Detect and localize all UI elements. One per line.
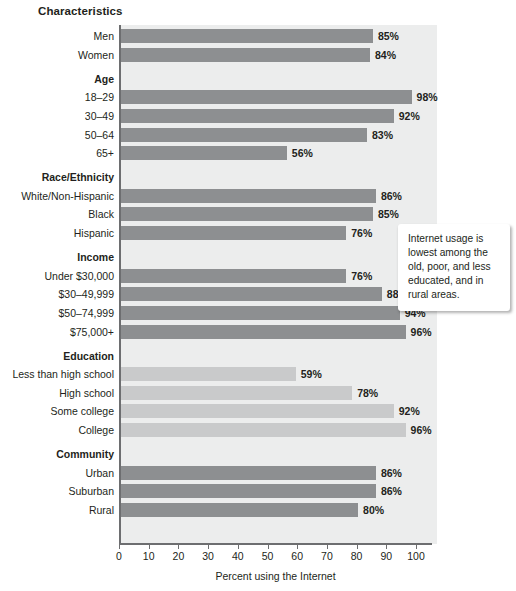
bar-value-label: 80% <box>358 505 384 516</box>
section-header-label: Income <box>77 252 119 263</box>
bar-category-label: White/Non-Hispanic <box>21 191 119 202</box>
bar-value-label: 76% <box>346 270 372 281</box>
bar-category-label: 30–49 <box>85 111 119 122</box>
chart-figure: Characteristics Men85%Women84%Age18–2998… <box>0 0 516 591</box>
bar-value-label: 98% <box>412 92 438 103</box>
bar <box>121 226 347 240</box>
bar-value-label: 92% <box>394 406 420 417</box>
section-header-row: Age <box>0 70 516 88</box>
bar-category-label: 50–64 <box>85 129 119 140</box>
bar-row: Women84% <box>0 46 516 64</box>
bar-category-label: $75,000+ <box>70 326 119 337</box>
x-axis-tick-label: 20 <box>173 551 185 562</box>
bar <box>121 269 347 283</box>
bar-category-label: 18–29 <box>85 92 119 103</box>
bar-row: 30–4992% <box>0 107 516 125</box>
x-axis-title: Percent using the Internet <box>119 570 432 582</box>
bar-value-label: 86% <box>376 467 402 478</box>
bar <box>121 423 406 437</box>
x-axis-tick-mark <box>149 544 150 549</box>
x-axis-tick-label: 60 <box>291 551 303 562</box>
bar <box>121 90 412 104</box>
bar-category-label: Suburban <box>68 486 119 497</box>
section-header-row: Education <box>0 347 516 365</box>
x-axis-tick-mark <box>119 544 120 549</box>
x-axis-tick-label: 40 <box>232 551 244 562</box>
x-axis-tick-label: 30 <box>202 551 214 562</box>
bar <box>121 109 394 123</box>
bar <box>121 325 406 339</box>
bar <box>121 466 376 480</box>
x-axis-tick-label: 70 <box>321 551 333 562</box>
bar-value-label: 78% <box>352 388 378 399</box>
bar-value-label: 96% <box>406 425 432 436</box>
section-header-label: Race/Ethnicity <box>42 172 119 183</box>
x-axis-line <box>119 543 432 545</box>
bar-row: 50–6483% <box>0 126 516 144</box>
x-axis-tick-mark <box>268 544 269 549</box>
bar-row: Urban86% <box>0 464 516 482</box>
bar <box>121 503 359 517</box>
bar <box>121 128 368 142</box>
bar-row: 18–2998% <box>0 88 516 106</box>
bar-value-label: 83% <box>367 129 393 140</box>
bar-row: $75,000+96% <box>0 323 516 341</box>
bar-value-label: 86% <box>376 486 402 497</box>
bar-row: College96% <box>0 421 516 439</box>
section-header-row: Race/Ethnicity <box>0 168 516 186</box>
bar-category-label: $50–74,999 <box>59 308 119 319</box>
page-title: Characteristics <box>38 5 123 17</box>
bar-row: Some college92% <box>0 402 516 420</box>
bar <box>121 306 400 320</box>
bar-category-label: Rural <box>89 505 119 516</box>
bar-value-label: 84% <box>370 49 396 60</box>
bar-value-label: 85% <box>373 31 399 42</box>
bar <box>121 207 373 221</box>
section-header-label: Education <box>63 350 119 361</box>
bar-category-label: $30–49,999 <box>59 289 119 300</box>
bar-row: Suburban86% <box>0 482 516 500</box>
bar-category-label: College <box>78 425 119 436</box>
bar-category-label: High school <box>59 388 119 399</box>
x-axis-tick-mark <box>327 544 328 549</box>
x-axis-tick-mark <box>297 544 298 549</box>
bar-category-label: Women <box>78 49 119 60</box>
bar-row: Less than high school59% <box>0 365 516 383</box>
bar <box>121 29 373 43</box>
x-axis-tick-mark <box>238 544 239 549</box>
x-axis-tick-mark <box>357 544 358 549</box>
bar-row: 65+56% <box>0 144 516 162</box>
x-axis-tick-label: 80 <box>351 551 363 562</box>
section-header-row: Community <box>0 445 516 463</box>
bar-category-label: Black <box>88 209 119 220</box>
bar-value-label: 85% <box>373 209 399 220</box>
bar-row: Rural80% <box>0 501 516 519</box>
section-header-label: Community <box>56 449 119 460</box>
bar <box>121 146 287 160</box>
bar-category-label: Urban <box>85 467 119 478</box>
bar-value-label: 92% <box>394 111 420 122</box>
bar <box>121 386 353 400</box>
x-axis-tick-mark <box>178 544 179 549</box>
bar <box>121 484 376 498</box>
x-axis-tick-label: 100 <box>407 551 425 562</box>
bar-value-label: 56% <box>287 148 313 159</box>
bar <box>121 367 296 381</box>
bar <box>121 189 376 203</box>
bar-category-label: Hispanic <box>74 228 119 239</box>
bar-row: Black85% <box>0 205 516 223</box>
bar-value-label: 59% <box>296 369 322 380</box>
x-axis-tick-mark <box>416 544 417 549</box>
bar-category-label: Less than high school <box>12 369 119 380</box>
bar <box>121 48 370 62</box>
bar <box>121 287 382 301</box>
bar-value-label: 86% <box>376 191 402 202</box>
x-axis-tick-label: 0 <box>116 551 122 562</box>
x-axis-tick-mark <box>386 544 387 549</box>
bar-category-label: Some college <box>50 406 119 417</box>
bar-row: White/Non-Hispanic86% <box>0 187 516 205</box>
bar-row: High school78% <box>0 384 516 402</box>
x-axis-tick-label: 50 <box>262 551 274 562</box>
bar <box>121 404 394 418</box>
x-axis-tick-mark <box>208 544 209 549</box>
